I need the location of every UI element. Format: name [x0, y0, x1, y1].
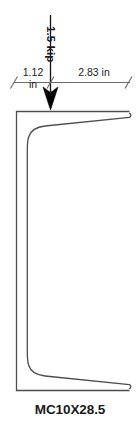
channel-inner-profile	[27, 113, 131, 388]
channel-outer-profile	[17, 112, 130, 391]
dimension-left-value: 1.12	[18, 67, 48, 78]
dimension-right-value: 2.83 in	[67, 67, 121, 78]
load-arrow-group	[43, 15, 58, 110]
dimension-left-unit: in	[18, 79, 48, 90]
section-drawing-svg	[0, 0, 140, 429]
section-designation-label: MC10X28.5	[0, 403, 140, 417]
channel-section-figure: 1.5 kip 1.12 in 2.83 in MC10X28.5	[0, 0, 140, 429]
channel-section-outline	[17, 112, 131, 391]
